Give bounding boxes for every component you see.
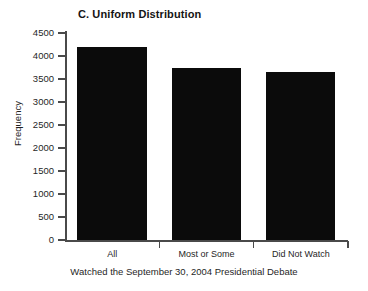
category-label: All <box>65 250 159 259</box>
y-tick-label: 1500 <box>33 166 54 176</box>
y-tick-label: 2500 <box>33 120 54 130</box>
bar <box>172 68 241 240</box>
y-tick-label: 1000 <box>33 189 54 199</box>
x-tick-mark <box>347 241 348 248</box>
y-tick-mark <box>58 239 65 240</box>
y-axis-title: Frequency <box>12 84 23 164</box>
x-tick-mark <box>253 241 254 248</box>
x-axis-title: Watched the September 30, 2004 President… <box>0 266 368 277</box>
y-tick-label: 2000 <box>33 143 54 153</box>
y-tick-label: 3500 <box>33 74 54 84</box>
bar <box>77 47 146 240</box>
x-axis-line <box>65 240 348 242</box>
y-tick-mark <box>58 216 65 217</box>
y-tick-label: 4000 <box>33 51 54 61</box>
y-tick-mark <box>58 32 65 33</box>
y-tick-label: 0 <box>49 235 54 245</box>
y-tick-mark <box>58 193 65 194</box>
y-axis-line <box>65 31 67 242</box>
y-tick-mark <box>58 55 65 56</box>
category-label: Did Not Watch <box>254 250 348 259</box>
bar-chart-figure: C. Uniform Distribution Frequency 050010… <box>0 0 368 291</box>
y-tick-mark <box>58 147 65 148</box>
y-tick-mark <box>58 124 65 125</box>
y-tick-mark <box>58 101 65 102</box>
x-tick-mark <box>159 241 160 248</box>
y-tick-label: 500 <box>38 212 54 222</box>
y-tick-mark <box>58 170 65 171</box>
category-label: Most or Some <box>159 250 253 259</box>
y-tick-label: 3000 <box>33 97 54 107</box>
chart-title: C. Uniform Distribution <box>78 8 201 20</box>
bar <box>266 72 335 240</box>
y-tick-label: 4500 <box>33 28 54 38</box>
y-tick-mark <box>58 78 65 79</box>
